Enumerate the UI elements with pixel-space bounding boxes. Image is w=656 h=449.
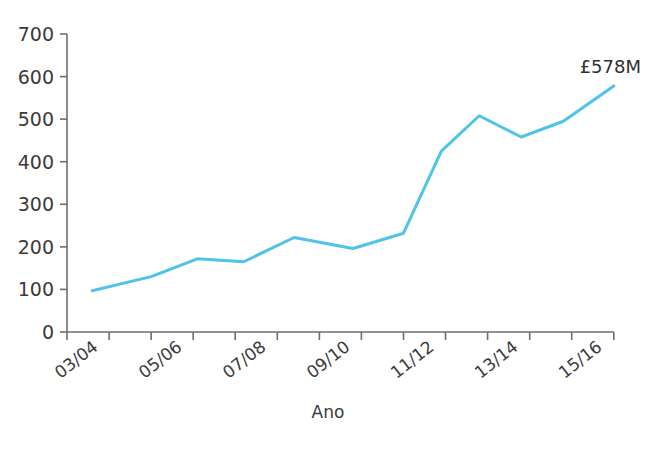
y-tick-label: 400 xyxy=(18,151,54,173)
x-tick-label: 03/04 xyxy=(51,336,102,382)
x-tick-label: 09/10 xyxy=(303,336,354,382)
y-tick-label: 500 xyxy=(18,108,54,130)
x-tick-label-group: 03/04 05/06 07/08 09/10 11/12 13/14 15/1… xyxy=(51,336,606,382)
x-tick-label: 05/06 xyxy=(135,336,186,382)
y-tick-label: 300 xyxy=(18,193,54,215)
y-tick-label: 700 xyxy=(18,23,54,45)
y-tick-label: 0 xyxy=(42,321,54,343)
x-tick-label: 15/16 xyxy=(555,336,606,382)
line-chart: 700 600 500 400 300 200 100 0 xyxy=(0,0,656,449)
x-tick-label: 07/08 xyxy=(219,336,270,382)
data-series-line xyxy=(92,86,614,291)
x-tick-label: 13/14 xyxy=(471,336,522,382)
endpoint-value-label: £578M xyxy=(580,56,641,77)
y-tick-label: 600 xyxy=(18,66,54,88)
x-tick-label: 11/12 xyxy=(387,336,438,382)
y-tick-group: 700 600 500 400 300 200 100 0 xyxy=(18,23,67,343)
y-tick-label: 100 xyxy=(18,278,54,300)
x-axis-title: Ano xyxy=(312,402,345,422)
chart-canvas: 700 600 500 400 300 200 100 0 xyxy=(0,0,656,449)
y-tick-label: 200 xyxy=(18,236,54,258)
